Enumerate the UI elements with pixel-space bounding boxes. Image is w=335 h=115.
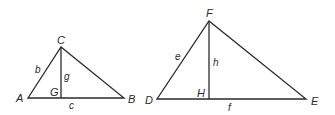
vertex-a-label: A	[15, 92, 23, 104]
vertex-b-label: B	[128, 93, 135, 105]
foot-g-label: G	[50, 86, 59, 98]
similar-triangles-diagram: A B C G b c g D E F H e f h	[0, 0, 335, 115]
altitude-h-label: h	[213, 57, 219, 68]
foot-h-label: H	[197, 87, 205, 99]
vertex-c-label: C	[57, 34, 65, 46]
side-c-label: c	[69, 100, 74, 111]
triangle-abc: A B C G b c g	[15, 34, 135, 111]
altitude-g-label: g	[64, 71, 70, 82]
vertex-e-label: E	[311, 95, 319, 107]
side-b-label: b	[35, 64, 41, 75]
vertex-f-label: F	[206, 7, 214, 19]
side-e-label: e	[175, 51, 181, 62]
triangle-def: D E F H e f h	[145, 7, 319, 113]
vertex-d-label: D	[145, 94, 153, 106]
side-f-label: f	[228, 102, 232, 113]
triangle-abc-outline	[28, 47, 124, 98]
